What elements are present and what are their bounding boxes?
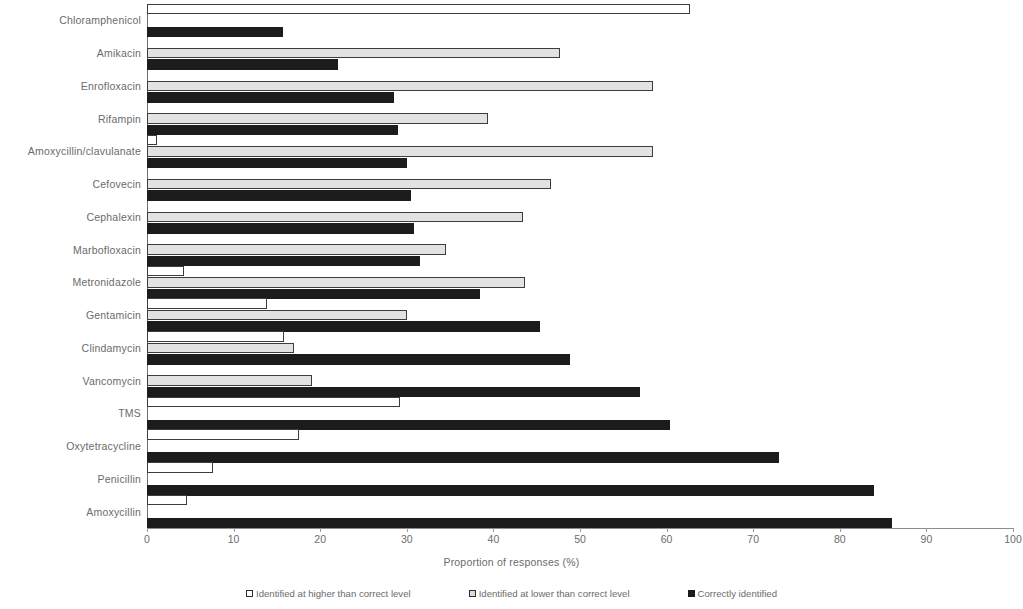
category-label: Cephalexin [86, 211, 141, 223]
bar-group [147, 397, 1013, 430]
category-label: Gentamicin [86, 309, 141, 321]
bar-lower [147, 277, 525, 288]
bar-higher [147, 429, 299, 440]
x-tick-label: 60 [661, 533, 673, 545]
bar-correct [147, 190, 411, 201]
bar-group [147, 495, 1013, 528]
bar-lower [147, 310, 407, 321]
legend-label: Correctly identified [698, 588, 777, 599]
chart-legend: Identified at higher than correct levelI… [0, 588, 1023, 599]
category-label: Oxytetracycline [66, 440, 141, 452]
bar-lower [147, 113, 488, 124]
category-label: Metronidazole [72, 276, 141, 288]
bar-higher [147, 397, 400, 408]
x-tick-mark [580, 528, 581, 532]
bar-lower [147, 48, 560, 59]
category-label: TMS [118, 407, 141, 419]
bar-correct [147, 27, 283, 38]
bar-group [147, 463, 1013, 496]
bar-lower [147, 375, 312, 386]
plot-area [147, 4, 1013, 528]
bar-correct [147, 354, 570, 365]
x-tick-label: 70 [747, 533, 759, 545]
category-label: Amoxycillin [86, 506, 141, 518]
x-tick-label: 80 [834, 533, 846, 545]
category-label: Marbofloxacin [73, 244, 141, 256]
bar-correct [147, 452, 779, 463]
legend-label: Identified at higher than correct level [256, 588, 411, 599]
bar-group [147, 168, 1013, 201]
bar-higher [147, 331, 284, 342]
x-tick-mark [493, 528, 494, 532]
bar-group [147, 233, 1013, 266]
bar-correct [147, 92, 394, 103]
legend-item[interactable]: Identified at lower than correct level [469, 588, 630, 599]
legend-swatch-lower [469, 590, 476, 597]
x-tick-label: 50 [574, 533, 586, 545]
x-tick-mark [926, 528, 927, 532]
x-tick-label: 30 [401, 533, 413, 545]
category-label: Chloramphenicol [59, 14, 141, 26]
bar-group [147, 102, 1013, 135]
bar-correct [147, 518, 892, 529]
bar-group [147, 332, 1013, 365]
x-tick-mark [147, 528, 148, 532]
x-tick-mark [753, 528, 754, 532]
bar-higher [147, 495, 187, 506]
category-label: Amikacin [97, 47, 141, 59]
category-label: Clindamycin [82, 342, 141, 354]
bar-correct [147, 223, 414, 234]
x-tick-label: 90 [921, 533, 933, 545]
bar-group [147, 201, 1013, 234]
x-tick-label: 10 [228, 533, 240, 545]
bar-group [147, 4, 1013, 37]
bar-correct [147, 485, 874, 496]
x-tick-mark [234, 528, 235, 532]
bar-correct [147, 59, 338, 70]
bar-lower [147, 244, 446, 255]
bar-group [147, 430, 1013, 463]
x-tick-label: 20 [314, 533, 326, 545]
category-label: Cefovecin [93, 178, 142, 190]
bar-group [147, 266, 1013, 299]
bar-group [147, 70, 1013, 103]
legend-label: Identified at lower than correct level [479, 588, 630, 599]
x-tick-label: 100 [1004, 533, 1022, 545]
bar-correct [147, 256, 420, 267]
bar-group [147, 135, 1013, 168]
category-label: Amoxycillin/clavulanate [28, 145, 141, 157]
legend-item[interactable]: Identified at higher than correct level [246, 588, 411, 599]
bar-higher [147, 462, 213, 473]
legend-swatch-higher [246, 590, 253, 597]
category-label: Vancomycin [83, 375, 141, 387]
x-tick-mark [320, 528, 321, 532]
bar-lower [147, 343, 294, 354]
bar-lower [147, 146, 653, 157]
grouped-bar-chart: 0102030405060708090100 Proportion of res… [0, 0, 1023, 609]
bar-group [147, 364, 1013, 397]
bar-higher [147, 135, 157, 146]
x-tick-mark [667, 528, 668, 532]
bar-higher [147, 4, 690, 15]
x-tick-label: 0 [144, 533, 150, 545]
x-tick-mark [840, 528, 841, 532]
x-axis-title: Proportion of responses (%) [0, 556, 1023, 568]
bar-higher [147, 298, 267, 309]
bar-correct [147, 158, 407, 169]
category-label: Enrofloxacin [81, 80, 141, 92]
x-tick-label: 40 [488, 533, 500, 545]
bar-higher [147, 266, 184, 277]
bar-correct [147, 125, 398, 136]
bar-group [147, 37, 1013, 70]
bar-lower [147, 81, 653, 92]
legend-swatch-correct [688, 590, 695, 597]
category-label: Penicillin [98, 473, 141, 485]
x-tick-mark [1013, 528, 1014, 532]
bar-group [147, 299, 1013, 332]
x-tick-mark [407, 528, 408, 532]
category-label: Rifampin [98, 113, 141, 125]
legend-item[interactable]: Correctly identified [688, 588, 777, 599]
bar-lower [147, 212, 523, 223]
bar-lower [147, 179, 551, 190]
